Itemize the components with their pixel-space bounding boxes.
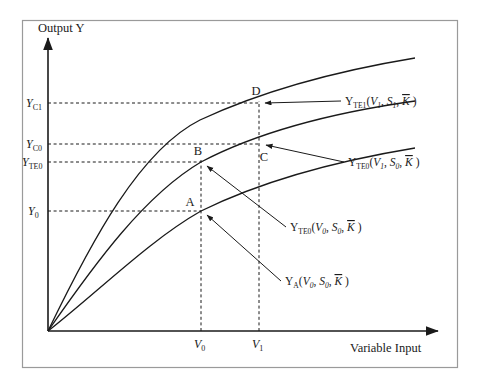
point-label-D: D <box>251 84 260 98</box>
production-function-diagram: Output Y Variable Input YC1YC0YTE0Y0 V0V… <box>0 0 477 385</box>
figure-container: Output Y Variable Input YC1YC0YTE0Y0 V0V… <box>0 0 477 385</box>
y-axis-title: Output Y <box>38 21 84 35</box>
point-label-B: B <box>194 144 202 158</box>
point-label-A: A <box>185 195 194 209</box>
x-axis-title: Variable Input <box>350 341 422 355</box>
point-label-C: C <box>260 150 268 164</box>
